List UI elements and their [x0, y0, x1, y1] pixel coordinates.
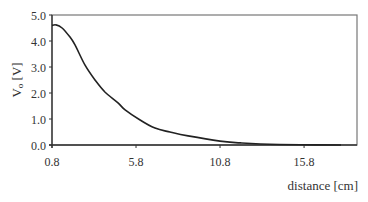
y-tick-label: 2.0: [31, 87, 46, 101]
x-tick-label: 0.8: [45, 155, 60, 169]
x-axis-ticks: 0.85.810.815.8: [45, 145, 315, 169]
x-tick-label: 5.8: [129, 155, 144, 169]
x-tick-label: 10.8: [210, 155, 231, 169]
y-tick-label: 5.0: [31, 9, 46, 23]
x-tick-label: 15.8: [294, 155, 315, 169]
y-axis-label-unit: [V]: [9, 62, 24, 83]
y-tick-label: 1.0: [31, 113, 46, 127]
y-axis-label: Vo [V]: [9, 62, 25, 97]
y-tick-label: 3.0: [31, 61, 46, 75]
plot-border: [52, 15, 357, 145]
x-axis-label: distance [cm]: [288, 178, 358, 193]
y-tick-label: 0.0: [31, 139, 46, 153]
data-series-line: [52, 25, 341, 145]
y-tick-label: 4.0: [31, 35, 46, 49]
line-chart: 0.01.02.03.04.05.0 0.85.810.815.8 Vo [V]…: [0, 0, 368, 202]
y-axis-ticks: 0.01.02.03.04.05.0: [31, 9, 52, 153]
